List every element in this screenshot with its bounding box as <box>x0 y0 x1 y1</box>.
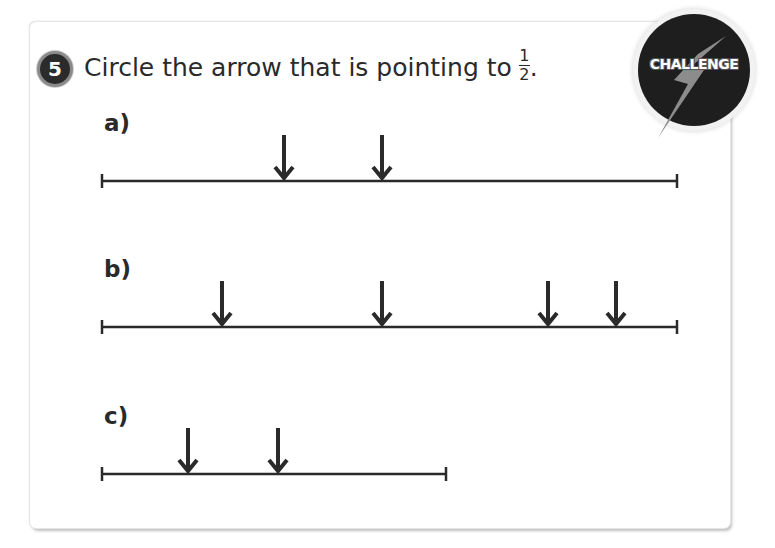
down-arrow-icon[interactable] <box>213 281 231 324</box>
down-arrow-icon[interactable] <box>179 428 197 471</box>
number-lines <box>0 0 775 548</box>
down-arrow-icon[interactable] <box>373 135 391 178</box>
down-arrow-icon[interactable] <box>607 281 625 324</box>
down-arrow-icon[interactable] <box>275 135 293 178</box>
down-arrow-icon[interactable] <box>269 428 287 471</box>
down-arrow-icon[interactable] <box>373 281 391 324</box>
down-arrow-icon[interactable] <box>539 281 557 324</box>
